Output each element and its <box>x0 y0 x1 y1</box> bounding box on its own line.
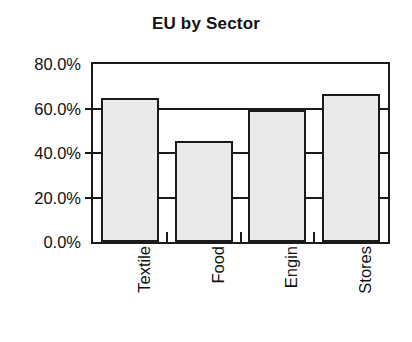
y-tick-mark <box>85 152 91 154</box>
y-tick-label: 20.0% <box>34 189 81 206</box>
y-tick-mark <box>85 108 91 110</box>
bar-chart: EU by Sector 0.0%20.0%40.0%60.0%80.0% Te… <box>0 0 412 342</box>
category-tick <box>313 232 315 242</box>
y-tick-label: 80.0% <box>34 56 81 73</box>
bar-food <box>175 141 233 242</box>
bar-stores <box>322 94 380 242</box>
chart-title: EU by Sector <box>0 14 412 34</box>
x-tick-label: Textile <box>136 246 153 293</box>
y-tick-mark <box>85 197 91 199</box>
x-tick-label: Food <box>210 246 227 284</box>
x-tick-label: Engin <box>283 246 300 288</box>
y-tick-label: 40.0% <box>34 145 81 162</box>
bar-textile <box>101 98 159 242</box>
category-tick <box>240 232 242 242</box>
y-tick-label: 60.0% <box>34 100 81 117</box>
x-tick-label: Stores <box>357 246 374 294</box>
y-tick-label: 0.0% <box>43 234 81 251</box>
plot-inner <box>93 64 388 242</box>
y-axis: 0.0%20.0%40.0%60.0%80.0% <box>0 62 86 244</box>
plot-area <box>91 62 390 244</box>
x-axis: TextileFoodEnginStores <box>91 246 390 342</box>
category-tick <box>166 232 168 242</box>
bar-engin <box>248 110 306 242</box>
